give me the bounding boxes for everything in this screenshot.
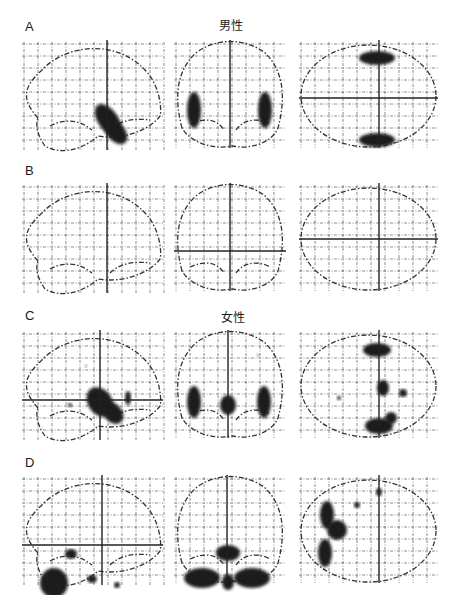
panel-a-coronal	[172, 40, 288, 158]
panel-d-axial	[297, 475, 440, 593]
row-label-b: B	[25, 163, 34, 178]
row-label-d: D	[25, 455, 34, 470]
panel-b-coronal	[172, 183, 288, 301]
panel-c-axial	[297, 330, 440, 448]
row-label-c: C	[25, 308, 34, 323]
group-title-male: 男性	[219, 16, 243, 33]
panel-a-sagittal	[20, 40, 165, 160]
panel-a-axial	[297, 40, 440, 158]
group-title-female: 女性	[221, 308, 245, 325]
panel-c-coronal	[172, 330, 288, 448]
panel-b-axial	[297, 183, 440, 301]
panel-b-sagittal	[20, 183, 165, 303]
panel-d-coronal	[172, 475, 288, 593]
row-label-a: A	[25, 19, 34, 34]
panel-d-sagittal	[20, 475, 165, 595]
panel-c-sagittal	[20, 330, 165, 450]
